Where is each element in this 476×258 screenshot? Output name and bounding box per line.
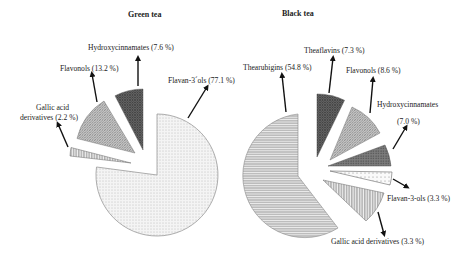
black-arrow-flavan-3-ols	[393, 179, 407, 187]
black-label-flavonols: Flavonols (8.6 %)	[346, 66, 401, 75]
black-label-flavan-3-ols: Flavan-3-ols (3.3 %)	[387, 194, 451, 203]
black-tea-title: Black tea	[282, 9, 314, 18]
green-label-flavan-3-ols: Flavan-3´ols (77.1 %)	[168, 76, 235, 85]
black-arrow-hydroxycinnamates	[393, 127, 406, 149]
green-arrow-flavonols	[92, 74, 97, 102]
green-label-hydroxycinnamates: Hydroxycinnamates (7.6 %)	[88, 43, 174, 52]
black-tea-chart: Black tea Theaflavins (7.3 %) Thearubigi…	[243, 9, 451, 246]
tea-polyphenol-pie-charts: Green tea Hydroxycinnamates (7.6 %) Flav…	[0, 0, 476, 258]
black-arrow-theaflavins	[329, 58, 333, 93]
black-label-gallic-acid: Gallic acid derivatives (3.3 %)	[331, 237, 424, 246]
black-label-hydroxycinnamates-line2: (7.0 %)	[397, 117, 420, 126]
green-tea-chart: Green tea Hydroxycinnamates (7.6 %) Flav…	[20, 10, 235, 236]
black-label-thearubigins: Thearubigins (54.8 %)	[243, 63, 312, 72]
green-arrow-gallic-acid	[58, 124, 68, 147]
green-label-flavonols: Flavonols (13.2 %)	[60, 64, 119, 73]
black-slice-gallic-acid	[323, 180, 384, 221]
green-tea-title: Green tea	[128, 10, 161, 19]
black-label-hydroxycinnamates-line1: Hydroxycinnamates	[377, 100, 438, 109]
green-label-gallic-acid-line2: derivatives (2.2 %)	[20, 113, 78, 122]
black-arrow-thearubigins	[282, 75, 286, 112]
black-arrow-gallic-acid	[378, 212, 384, 234]
black-label-theaflavins: Theaflavins (7.3 %)	[304, 46, 365, 55]
black-arrow-flavonols	[370, 79, 373, 113]
black-slice-flavan-3-ols	[330, 171, 392, 185]
green-arrow-flavan-3-ols	[188, 87, 207, 118]
green-label-gallic-acid-line1: Gallic acid	[36, 103, 69, 112]
